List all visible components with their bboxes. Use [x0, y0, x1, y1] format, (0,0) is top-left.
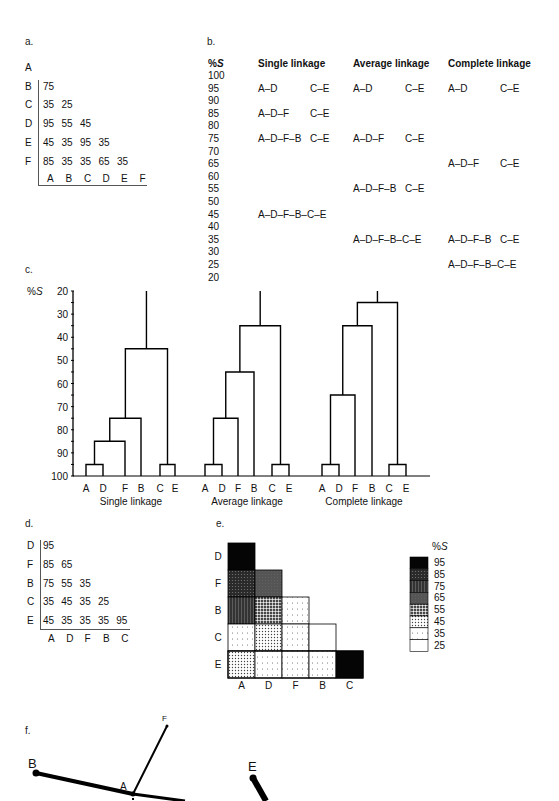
edge-b-a	[36, 773, 133, 794]
edge-a-f	[133, 726, 167, 794]
node-f	[166, 725, 169, 728]
node-label-e: E	[248, 759, 257, 774]
node-e	[250, 775, 257, 782]
node-a	[131, 792, 136, 797]
node-label-b: B	[28, 756, 37, 771]
node-label-f: F	[162, 714, 167, 723]
edge-e-c	[253, 778, 266, 801]
network-diagram-f: B A E F	[0, 0, 559, 801]
edge-a-c	[133, 794, 185, 801]
node-label-a: A	[120, 781, 127, 792]
